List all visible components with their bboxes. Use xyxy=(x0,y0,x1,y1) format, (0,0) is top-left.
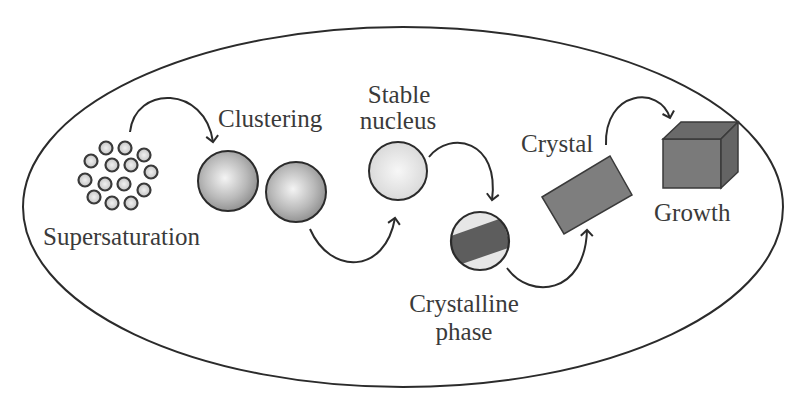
arrow-to-crystal-icon xyxy=(507,230,587,287)
label-supersaturation: Supersaturation xyxy=(43,223,200,250)
label-growth: Growth xyxy=(654,199,731,226)
arrow-to-crystalline-phase-icon xyxy=(429,143,493,200)
label-stable-nucleus-line2: nucleus xyxy=(360,107,436,134)
arrow-to-stable-nucleus-icon xyxy=(310,218,395,262)
cluster-sphere-1-icon xyxy=(198,151,258,211)
arrow-to-growth-icon xyxy=(606,97,670,145)
arrow-to-clustering-icon xyxy=(130,98,213,142)
stable-nucleus-icon xyxy=(369,142,427,200)
label-clustering: Clustering xyxy=(218,105,323,132)
crystalline-phase-icon xyxy=(448,212,511,270)
cluster-sphere-2-icon xyxy=(266,162,326,222)
crystal-icon xyxy=(542,156,632,234)
growth-cube-icon xyxy=(663,122,738,188)
label-crystal: Crystal xyxy=(521,130,593,157)
label-crystalline-phase-line1: Crystalline xyxy=(409,290,519,317)
label-crystalline-phase-line2: phase xyxy=(436,318,493,345)
label-stable-nucleus-line1: Stable xyxy=(368,81,431,108)
supersaturation-particles-icon xyxy=(79,142,158,210)
crystallization-diagram: Supersaturation Clustering Stable nucleu… xyxy=(0,0,807,396)
